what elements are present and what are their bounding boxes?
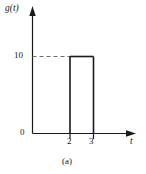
x-axis-label: t — [130, 137, 133, 147]
y-axis-arrowhead — [29, 6, 35, 16]
figure-container: g(t) 10 0 2 3 t (a) — [0, 0, 146, 174]
plot-canvas — [0, 0, 146, 174]
x-tick-label-3: 3 — [89, 137, 94, 146]
y-axis-label: g(t) — [5, 4, 19, 14]
y-axis-value-label-10: 10 — [14, 51, 23, 60]
figure-caption: (a) — [62, 157, 72, 166]
x-tick-label-2: 2 — [67, 137, 72, 146]
origin-label: 0 — [20, 128, 25, 137]
